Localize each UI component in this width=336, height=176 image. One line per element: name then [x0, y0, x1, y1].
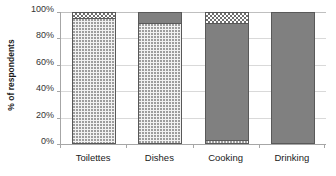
x-axis-label-cooking: Cooking: [193, 152, 259, 170]
y-tick-label: 0%: [41, 136, 54, 146]
x-tick-slot: [126, 144, 192, 150]
x-axis-label-dishes: Dishes: [126, 152, 192, 170]
y-tick-label: 60%: [36, 57, 54, 67]
y-tick-label: 40%: [36, 83, 54, 93]
bar-segment-solid[interactable]: [206, 23, 248, 140]
x-axis-labels: Toilettes Dishes Cooking Drinking: [60, 152, 325, 170]
bar-slot-toilettes: [61, 12, 127, 144]
x-tick-slot: [60, 144, 126, 150]
y-tick-label: 20%: [36, 110, 54, 120]
bar-segment-dotted[interactable]: [206, 140, 248, 143]
x-axis-tick-marks: [60, 144, 325, 150]
x-axis-label-toilettes: Toilettes: [60, 152, 126, 170]
bars-layer: [61, 12, 326, 144]
x-axis-label-drinking: Drinking: [259, 152, 325, 170]
bar-slot-drinking: [260, 12, 326, 144]
x-tick-mark: [259, 144, 260, 148]
x-tick-slot: [193, 144, 259, 150]
bar-segment-solid[interactable]: [272, 13, 314, 143]
x-tick-mark: [193, 144, 194, 148]
y-axis-tick-labels: 0% 20% 40% 60% 80% 100%: [18, 9, 58, 144]
bar-segment-dotted[interactable]: [73, 18, 115, 143]
stacked-bar-dishes[interactable]: [138, 12, 182, 144]
bar-slot-dishes: [127, 12, 193, 144]
y-tick-label: 100%: [31, 4, 54, 14]
x-tick-mark: [60, 144, 61, 148]
x-tick-mark-end: [324, 144, 325, 148]
stacked-bar-cooking[interactable]: [205, 12, 249, 144]
y-tick-label: 80%: [36, 30, 54, 40]
bar-segment-dotted[interactable]: [139, 23, 181, 143]
bar-segment-checkered[interactable]: [206, 13, 248, 23]
stacked-bar-toilettes[interactable]: [72, 12, 116, 144]
stacked-bar-drinking[interactable]: [271, 12, 315, 144]
bar-slot-cooking: [194, 12, 260, 144]
y-axis-title-text: % of respondents: [6, 39, 16, 110]
x-tick-mark: [126, 144, 127, 148]
plot-area: [60, 12, 326, 145]
bar-segment-solid[interactable]: [139, 13, 181, 23]
x-tick-slot: [259, 144, 325, 150]
chart-container: % of respondents 0% 20% 40% 60% 80% 100%: [0, 0, 336, 176]
